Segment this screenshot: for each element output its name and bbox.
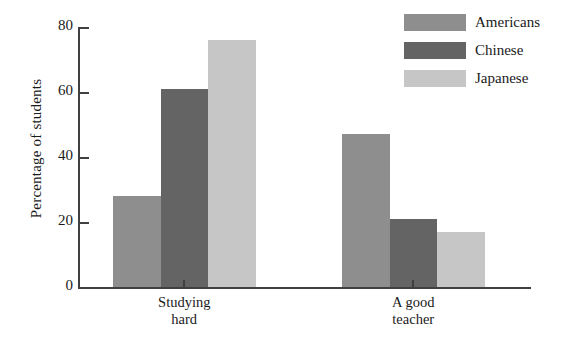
legend-item: Americans [404, 8, 540, 36]
x-axis-category-label: A good teacher [343, 294, 483, 328]
y-axis-tick-label: 20 [27, 212, 73, 229]
legend-swatch-chinese [404, 42, 466, 59]
chart-legend: AmericansChineseJapanese [404, 8, 540, 92]
legend-item: Chinese [404, 36, 540, 64]
bar-chart: Percentage of students 020406080 Studyin… [0, 0, 576, 339]
y-axis-tick-label: 40 [27, 147, 73, 164]
legend-swatch-japanese [404, 70, 466, 87]
y-axis-tick-label: 60 [27, 82, 73, 99]
legend-item: Japanese [404, 64, 540, 92]
legend-label: Japanese [475, 70, 528, 87]
x-axis-line [78, 287, 531, 289]
x-axis-category-label: Studying hard [114, 294, 254, 328]
bar-chinese-2 [390, 219, 438, 287]
y-axis-tick-mark [80, 287, 89, 289]
bar-japanese-2 [437, 232, 485, 287]
bar-americans-2 [342, 134, 390, 287]
bar-japanese-1 [208, 40, 256, 287]
bar-chinese-1 [161, 89, 209, 287]
legend-swatch-americans [404, 14, 466, 31]
y-axis-tick-label: 0 [27, 277, 73, 294]
bar-americans-1 [113, 196, 161, 287]
x-axis-tick-mark [412, 280, 414, 287]
y-axis-tick-label: 80 [27, 17, 73, 34]
legend-label: Chinese [475, 42, 523, 59]
legend-label: Americans [475, 14, 540, 31]
x-axis-tick-mark [183, 280, 185, 287]
